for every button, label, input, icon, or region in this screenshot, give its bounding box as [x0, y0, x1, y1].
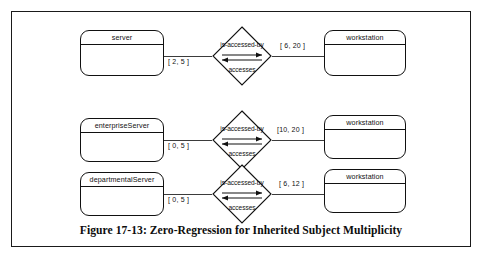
relationship-label-reverse-row-2: accesses — [212, 150, 272, 157]
relationship-diamond-row-1[interactable]: is-accessed-by accesses — [212, 26, 272, 86]
connector-left-row-1 — [164, 56, 212, 57]
relationship-diamond-row-3[interactable]: is-accessed-by accesses — [212, 164, 272, 224]
connector-right-row-3 — [272, 194, 324, 195]
connector-left-row-2 — [164, 140, 212, 141]
entity-body-workstation-row-2 — [325, 130, 405, 158]
relationship-label-reverse-row-1: accesses — [212, 66, 272, 73]
diagram-canvas: server is-accessed-by accesses workstati… — [12, 12, 470, 246]
entity-name-workstation-row-1: workstation — [325, 31, 405, 45]
entity-body-departmental-server — [81, 187, 163, 215]
figure-frame: server is-accessed-by accesses workstati… — [11, 11, 471, 247]
entity-name-server: server — [81, 31, 163, 45]
relationship-diamond-row-2[interactable]: is-accessed-by accesses — [212, 110, 272, 170]
entity-body-server — [81, 45, 163, 75]
entity-box-workstation-row-3[interactable]: workstation — [324, 169, 406, 213]
relationship-label-forward-row-2: is-accessed-by — [212, 125, 272, 132]
connector-left-row-3 — [164, 194, 212, 195]
entity-box-workstation-row-1[interactable]: workstation — [324, 30, 406, 76]
figure-caption: Figure 17-13: Zero-Regression for Inheri… — [12, 224, 470, 237]
diamond-shape-icon — [212, 110, 272, 170]
multiplicity-left-row-3: [ 0, 5 ] — [168, 196, 189, 203]
entity-name-departmental-server: departmentalServer — [81, 173, 163, 187]
relationship-label-reverse-row-3: accesses — [212, 204, 272, 211]
relationship-label-forward-row-1: is-accessed-by — [212, 41, 272, 48]
diamond-shape-icon — [212, 164, 272, 224]
multiplicity-left-row-1: [ 2, 5 ] — [168, 58, 189, 65]
multiplicity-right-row-1: [ 6, 20 ] — [280, 42, 305, 49]
entity-body-workstation-row-1 — [325, 45, 405, 75]
multiplicity-left-row-2: [ 0, 5 ] — [168, 142, 189, 149]
entity-body-workstation-row-3 — [325, 184, 405, 212]
relationship-label-forward-row-3: is-accessed-by — [212, 179, 272, 186]
entity-box-workstation-row-2[interactable]: workstation — [324, 115, 406, 159]
entity-name-workstation-row-2: workstation — [325, 116, 405, 130]
entity-box-enterprise-server[interactable]: enterpriseServer — [80, 118, 164, 162]
multiplicity-right-row-3: [ 6, 12 ] — [279, 180, 304, 187]
connector-right-row-2 — [272, 140, 324, 141]
diamond-shape-icon — [212, 26, 272, 86]
connector-right-row-1 — [272, 56, 324, 57]
entity-name-enterprise-server: enterpriseServer — [81, 119, 163, 133]
entity-name-workstation-row-3: workstation — [325, 170, 405, 184]
entity-box-server[interactable]: server — [80, 30, 164, 76]
entity-body-enterprise-server — [81, 133, 163, 161]
multiplicity-right-row-2: [10, 20 ] — [277, 126, 304, 133]
entity-box-departmental-server[interactable]: departmentalServer — [80, 172, 164, 216]
